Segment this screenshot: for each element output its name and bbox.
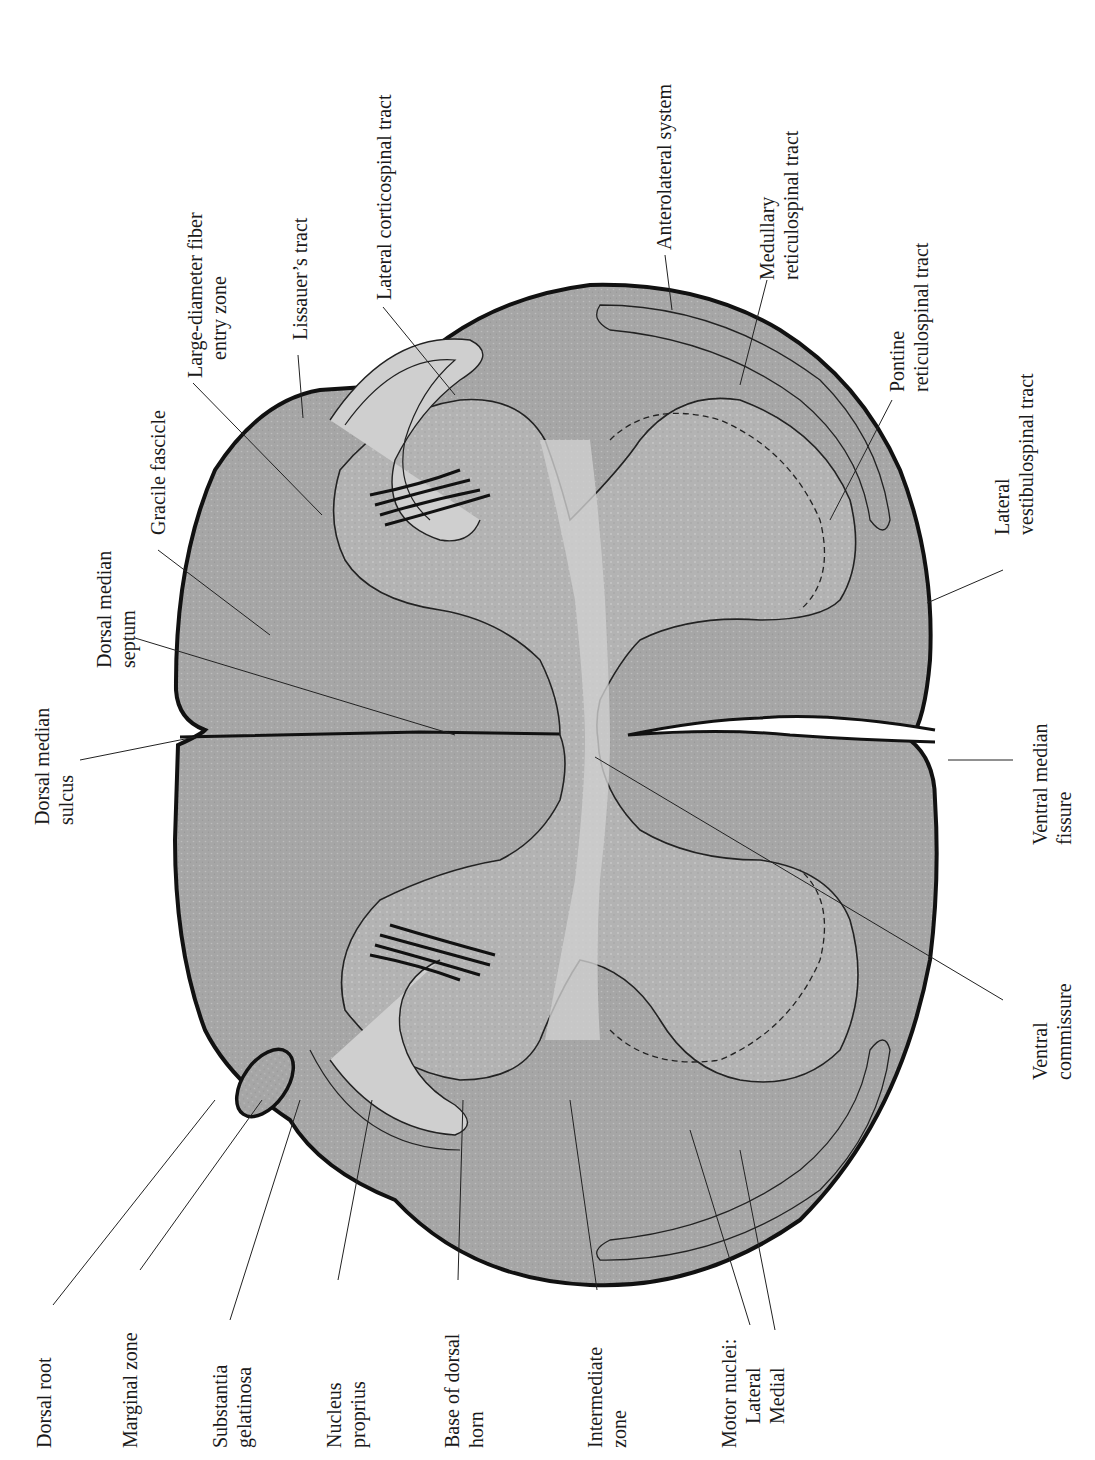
label-text: Motor nuclei:: [717, 1339, 741, 1448]
label-lissauers-tract: Lissauer’s tract: [288, 218, 312, 340]
spinal-cord-illustration: [0, 0, 1095, 1460]
label-lateral-corticospinal-tract: Lateral corticospinal tract: [372, 95, 396, 300]
label-text: fissure: [1052, 723, 1076, 845]
label-motor-nuclei-medial: Medial: [765, 1339, 789, 1448]
label-marginal-zone: Marginal zone: [118, 1332, 142, 1448]
label-motor-nuclei-lateral: Lateral: [741, 1339, 765, 1448]
label-pontine-reticulospinal-tract: Pontinereticulospinal tract: [885, 243, 933, 392]
label-text: Gracile fascicle: [146, 410, 170, 535]
label-text: sulcus: [54, 708, 78, 825]
label-text: vestibulospinal tract: [1014, 373, 1038, 535]
label-intermediate-zone: Intermediatezone: [583, 1347, 631, 1448]
label-nucleus-proprius: Nucleusproprius: [322, 1381, 370, 1448]
label-medullary-reticulospinal-tract: Medullaryreticulospinal tract: [755, 131, 803, 280]
label-ventral-commissure: Ventralcommissure: [1028, 983, 1076, 1080]
label-text: Pontine: [885, 243, 909, 392]
label-text: Lateral corticospinal tract: [372, 95, 396, 300]
label-text: Dorsal median: [92, 551, 116, 668]
label-dorsal-median-septum: Dorsal medianseptum: [92, 551, 140, 668]
label-gracile-fascicle: Gracile fascicle: [146, 410, 170, 535]
label-text: proprius: [346, 1381, 370, 1448]
label-text: Dorsal median: [30, 708, 54, 825]
label-text: reticulospinal tract: [909, 243, 933, 392]
label-text: horn: [464, 1334, 488, 1448]
label-dorsal-root: Dorsal root: [32, 1357, 56, 1448]
label-text: Ventral: [1028, 983, 1052, 1080]
label-text: zone: [607, 1347, 631, 1448]
label-text: Substantia: [208, 1365, 232, 1448]
label-text: Medullary: [755, 131, 779, 280]
label-text: Marginal zone: [118, 1332, 142, 1448]
label-dorsal-median-sulcus: Dorsal mediansulcus: [30, 708, 78, 825]
label-text: entry zone: [207, 212, 231, 378]
label-motor-nuclei: Motor nuclei:LateralMedial: [717, 1339, 789, 1448]
label-text: Nucleus: [322, 1381, 346, 1448]
label-text: Lateral: [990, 373, 1014, 535]
spinal-cord-diagram: Dorsal root Marginal zone Substantiagela…: [0, 0, 1095, 1460]
label-text: Anterolateral system: [652, 84, 676, 250]
label-text: commissure: [1052, 983, 1076, 1080]
label-ventral-median-fissure: Ventral medianfissure: [1028, 723, 1076, 845]
label-text: Base of dorsal: [440, 1334, 464, 1448]
label-text: Dorsal root: [32, 1357, 56, 1448]
label-base-of-dorsal-horn: Base of dorsalhorn: [440, 1334, 488, 1448]
label-large-diameter-fiber-entry-zone: Large-diameter fiberentry zone: [183, 212, 231, 378]
label-text: Ventral median: [1028, 723, 1052, 845]
label-text: Lissauer’s tract: [288, 218, 312, 340]
label-text: gelatinosa: [232, 1365, 256, 1448]
label-text: septum: [116, 551, 140, 668]
label-lateral-vestibulospinal-tract: Lateralvestibulospinal tract: [990, 373, 1038, 535]
label-text: Large-diameter fiber: [183, 212, 207, 378]
label-anterolateral-system: Anterolateral system: [652, 84, 676, 250]
label-substantia-gelatinosa: Substantiagelatinosa: [208, 1365, 256, 1448]
label-text: Intermediate: [583, 1347, 607, 1448]
label-text: reticulospinal tract: [779, 131, 803, 280]
